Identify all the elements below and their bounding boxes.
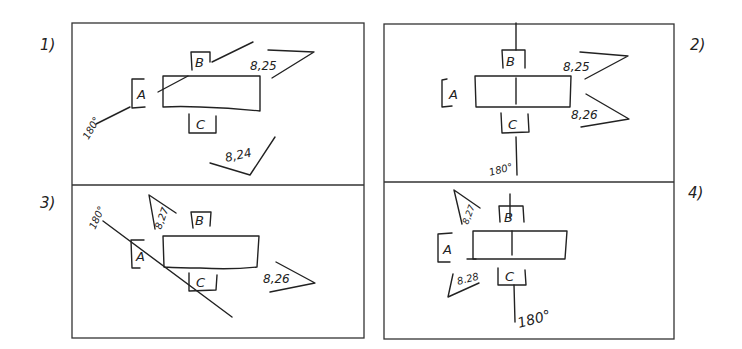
angle-label: 180° <box>488 161 514 178</box>
panel-1: 1) A B C 180° 8,25 8,24 <box>40 36 314 175</box>
flag-label: 8,24 <box>224 146 253 165</box>
label-a: A <box>448 87 458 102</box>
main-rectangle <box>163 236 259 269</box>
label-c: C <box>505 269 515 284</box>
flag-label: 8,25 <box>250 59 277 73</box>
main-rectangle <box>475 76 571 107</box>
angle-label: 180° <box>516 307 553 331</box>
label-c: C <box>196 117 206 132</box>
panel-2: 2) A B C 180° 8,25 8,26 <box>442 23 705 178</box>
angle-label: 180° <box>87 204 107 230</box>
label-a: A <box>442 242 452 257</box>
label-c: C <box>508 117 518 132</box>
flag-label: 8,26 <box>263 272 290 286</box>
label-b: B <box>506 54 515 69</box>
label-a: A <box>136 87 146 102</box>
left-frame <box>72 23 364 338</box>
flag-label: 8,27 <box>153 205 171 230</box>
panel-number: 2) <box>690 36 705 54</box>
right-frame <box>384 24 674 339</box>
main-rectangle <box>473 231 567 259</box>
label-c: C <box>196 275 206 290</box>
panel-number: 4) <box>688 184 703 202</box>
angle-label: 180° <box>80 115 102 141</box>
panel-number: 1) <box>40 36 55 54</box>
label-b: B <box>195 213 204 228</box>
flag-label: 8,25 <box>563 60 590 74</box>
label-b: B <box>504 210 513 225</box>
flag-label: 8,27 <box>460 203 476 226</box>
label-b: B <box>195 55 204 70</box>
flag-label: 8,26 <box>571 108 598 122</box>
panel-number: 3) <box>40 194 55 212</box>
panel-3: 3) A B C 180° 8,27 8,26 <box>40 194 315 317</box>
panel-4: 4) A B C 180° 8,27 8.28 <box>438 184 703 331</box>
